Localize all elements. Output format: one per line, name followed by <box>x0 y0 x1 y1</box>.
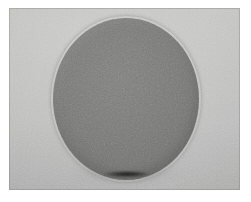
sphere-contact-shadow <box>101 171 153 178</box>
image-viewport <box>0 0 251 202</box>
sphere-object <box>53 18 199 180</box>
photo-frame <box>9 8 240 190</box>
sphere-rim-shading <box>53 18 199 180</box>
